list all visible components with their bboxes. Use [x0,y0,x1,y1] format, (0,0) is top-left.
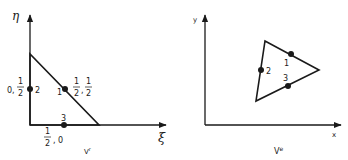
svg-text:2: 2 [86,89,91,98]
node-3-label: 3 [283,74,288,83]
xi-axis-label: ξ [158,130,166,145]
diagram-canvas: η ξ 1 1 2 , 1 2 2 0 , 1 2 3 1 2 , 0 Vr [0,0,348,160]
svg-text:1: 1 [45,127,50,136]
eta-axis-label: η [12,9,20,23]
svg-text:2: 2 [18,89,23,98]
svg-text:1: 1 [74,77,79,86]
reference-element: η ξ 1 1 2 , 1 2 2 0 , 1 2 3 1 2 , 0 Vr [7,9,166,156]
svg-text:1: 1 [86,77,91,86]
node-3-label: 3 [61,114,66,123]
reference-caption: Vr [84,146,92,156]
svg-text:,: , [53,136,56,145]
svg-text:,: , [81,86,84,95]
svg-text:,: , [12,86,15,95]
x-axis-label: x [332,131,336,139]
y-axis-label: y [193,16,197,24]
physical-element: y x 1 2 3 Ve [193,15,341,156]
node-1-label: 1 [57,88,62,97]
svg-text:2: 2 [74,89,79,98]
node-2-label: 2 [266,67,271,76]
node-3-physical [285,83,291,89]
node-2-label: 2 [35,86,40,95]
node-1-reference [62,86,68,92]
node-1-label: 1 [284,59,289,68]
physical-caption: Ve [274,145,283,156]
node-2-reference [27,86,33,92]
node-1-physical [288,51,294,57]
svg-text:0: 0 [58,136,63,145]
svg-text:1: 1 [18,77,23,86]
svg-text:2: 2 [45,139,50,148]
node-2-physical [258,67,264,73]
